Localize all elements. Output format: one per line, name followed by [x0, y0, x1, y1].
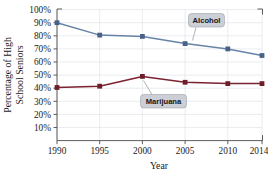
x-tick-label: 2014	[250, 146, 268, 156]
chart-figure: 100% 90% 80% 70% 60% 50% 40% 30% 20% 10%…	[0, 0, 268, 174]
alcohol-marker	[55, 20, 60, 25]
y-tick-label: 20%	[34, 110, 51, 120]
y-tick-label: 70%	[34, 44, 51, 54]
marijuana-marker	[260, 81, 265, 86]
x-tick-label: 2005	[176, 146, 195, 156]
marijuana-marker	[97, 84, 102, 89]
alcohol-marker	[97, 33, 102, 38]
marijuana-marker	[225, 81, 230, 86]
x-tick-label: 1990	[48, 146, 67, 156]
y-tick-label: 30%	[34, 97, 51, 107]
y-tick-label: 90%	[34, 18, 51, 28]
alcohol-callout-label: Alcohol	[193, 16, 221, 25]
alcohol-marker	[140, 34, 145, 39]
marijuana-marker	[140, 74, 145, 79]
y-tick-label: 80%	[34, 31, 51, 41]
x-tick-label: 1995	[90, 146, 109, 156]
alcohol-marker	[260, 53, 265, 58]
y-axis-title-line2: School Seniors	[14, 45, 25, 104]
x-tick-label: 2010	[219, 146, 238, 156]
y-tick-label: 10%	[34, 123, 51, 133]
x-tick-label: 2000	[133, 146, 152, 156]
alcohol-marker	[183, 41, 188, 46]
y-axis-title-line1: Percentage of High	[2, 37, 13, 113]
y-tick-label: 40%	[34, 83, 51, 93]
alcohol-marker	[225, 47, 230, 52]
marijuana-callout-label: Marijuana	[146, 97, 182, 106]
marijuana-marker	[55, 85, 60, 90]
y-tick-label: 60%	[34, 57, 51, 67]
y-tick-label: 100%	[29, 5, 51, 15]
line-chart: 100% 90% 80% 70% 60% 50% 40% 30% 20% 10%…	[0, 0, 268, 174]
x-axis-title: Year	[150, 160, 169, 171]
marijuana-marker	[183, 80, 188, 85]
y-tick-label: 50%	[34, 70, 51, 80]
